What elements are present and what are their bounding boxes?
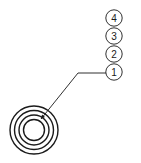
balloon-label: 2 [111, 49, 117, 60]
balloon-label: 4 [111, 13, 117, 24]
ring-1 [10, 106, 58, 154]
concentric-rings [10, 106, 58, 154]
balloon-label: 3 [111, 31, 117, 42]
ring-2 [15, 111, 54, 150]
balloon-4: 4 [106, 10, 122, 26]
balloon-1: 1 [106, 64, 122, 80]
callout-diagram: 4321 [0, 0, 141, 163]
balloon-stack: 4321 [106, 10, 122, 80]
balloon-2: 2 [106, 46, 122, 62]
ring-4 [24, 120, 45, 141]
balloon-label: 1 [111, 67, 117, 78]
balloon-3: 3 [106, 28, 122, 44]
